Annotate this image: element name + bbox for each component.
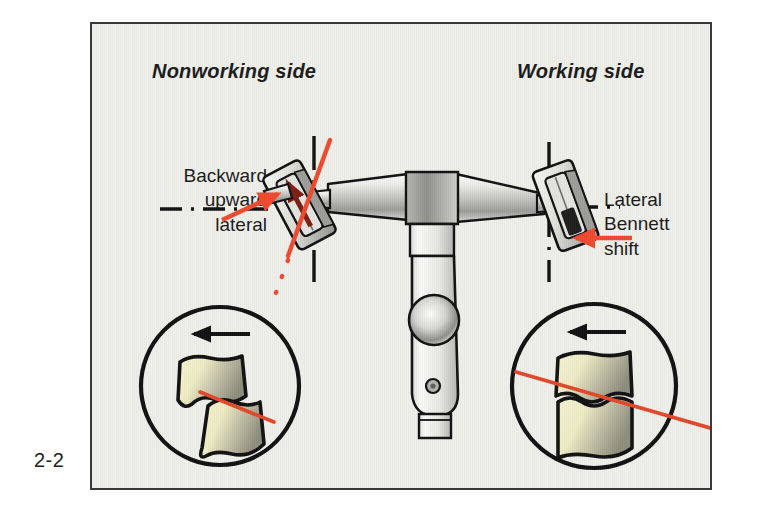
crossbar-left-wing <box>328 174 408 220</box>
figure-number: 2-2 <box>34 449 64 472</box>
crossbar-center-block <box>406 172 458 224</box>
locking-screw-center <box>430 383 435 388</box>
working-inset <box>512 304 710 468</box>
nonworking-lower-tooth <box>201 400 264 457</box>
adjustment-knob[interactable] <box>409 295 459 345</box>
stem-foot <box>419 414 451 438</box>
backward-upward-lateral-arrow <box>222 194 278 220</box>
nonworking-movement-path-dotted <box>274 260 288 298</box>
articulator-illustration <box>92 24 710 488</box>
crossbar-right-wing <box>456 174 544 222</box>
articulator-device <box>310 172 562 438</box>
panel-inner: Nonworking side Working side Backward up… <box>92 24 710 488</box>
working-lower-tooth <box>558 398 632 458</box>
figure-root: 2-2 Nonworking side Working side Backwar… <box>0 0 764 527</box>
nonworking-inset <box>141 307 299 465</box>
illustration-panel: Nonworking side Working side Backward up… <box>90 22 712 490</box>
stem-upper-segment <box>410 224 454 256</box>
